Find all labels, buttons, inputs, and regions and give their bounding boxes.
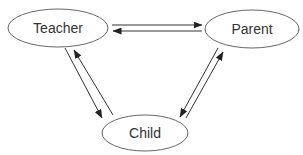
node-teacher: Teacher (8, 9, 108, 47)
relationship-diagram: Teacher Parent Child (0, 0, 303, 155)
arrow-teacher-to-child (65, 48, 102, 118)
node-parent: Parent (205, 10, 299, 48)
arrow-child-to-parent (186, 52, 223, 118)
child-label: Child (129, 125, 161, 141)
parent-label: Parent (231, 21, 272, 37)
arrow-parent-to-child (180, 48, 218, 117)
node-child: Child (102, 115, 188, 151)
arrow-child-to-teacher (74, 50, 113, 115)
teacher-label: Teacher (33, 20, 83, 36)
